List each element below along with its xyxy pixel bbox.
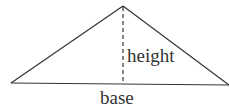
base-line [11, 83, 229, 85]
triangle-diagram: height base [0, 0, 229, 107]
left-side [11, 6, 123, 83]
base-label: base [100, 88, 134, 107]
height-label: height [127, 46, 175, 65]
